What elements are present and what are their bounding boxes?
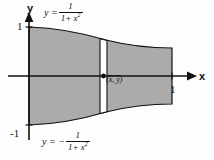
x-axis-label: x [199,71,205,82]
equation-lower-curve: y = − 1 1+ x2 [42,131,90,152]
equation-upper-lhs: y = [44,8,58,18]
x-tick-label-1: 1 [170,84,176,95]
equation-upper-denominator: 1+ x2 [59,13,83,23]
centroid-x-symbol: x [109,76,113,84]
equation-upper-exponent: 2 [78,12,81,18]
equation-upper-fraction: 1 1+ x2 [59,2,83,23]
equation-lower-denominator: 1+ x2 [66,142,90,152]
equation-lower-exponent: 2 [85,141,88,147]
y-tick-label-neg1: -1 [10,128,19,139]
equation-lower-numerator: 1 [74,131,83,141]
equation-lower-lhs: y = − [42,137,65,147]
centroid-label: (x, y) [106,76,122,84]
equation-lower-fraction: 1 1+ x2 [66,131,90,152]
centroid-y-symbol: y [116,76,120,84]
centroid-paren-close: ) [120,75,123,84]
x-axis-arrowhead [187,72,197,81]
y-tick-label-1: 1 [17,21,23,32]
equation-upper-curve: y = 1 1+ x2 [44,2,83,23]
centroid-separator: , [112,75,114,84]
equation-upper-numerator: 1 [66,2,75,12]
y-axis-label: y [27,3,33,14]
